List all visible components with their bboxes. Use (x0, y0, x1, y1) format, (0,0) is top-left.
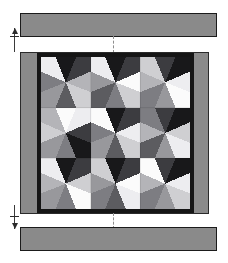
bottom-border-strip (20, 227, 217, 251)
center-registration-mark-top (113, 36, 115, 53)
diagram-canvas (0, 0, 228, 263)
quilt-outer-border (20, 52, 209, 214)
quilt-block-grid (41, 57, 190, 209)
top-border-strip (20, 13, 217, 37)
up-arrow-icon (12, 28, 18, 34)
bottom-dimension-tick (10, 216, 19, 217)
quilt-inner-border (37, 53, 194, 213)
quilt-center-blocks (41, 57, 190, 209)
down-arrow-icon (12, 223, 18, 229)
top-dimension-tick (10, 36, 19, 37)
